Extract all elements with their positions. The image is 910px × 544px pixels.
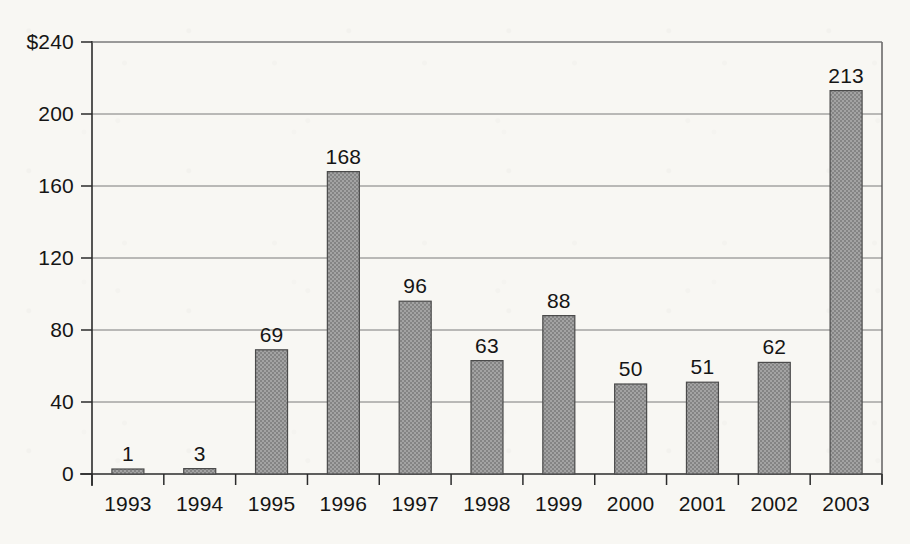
bar-value-label-2003: 213 [828,64,864,87]
bar-value-label-1994: 3 [194,442,206,465]
bar-value-label-2000: 50 [619,357,643,380]
bar-value-label-1995: 69 [260,323,284,346]
bar-value-label-1998: 63 [475,334,499,357]
x-axis-label-2001: 2001 [679,492,727,515]
bar-1998 [471,361,503,474]
x-axis-labels-group: 1993199419951996199719981999200020012002… [104,492,870,515]
chart-canvas: 04080120160200$240 199319941995199619971… [0,0,910,544]
x-axis-label-1998: 1998 [463,492,511,515]
bars-group [112,91,862,474]
bar-2003 [830,91,862,474]
bar-1996 [327,172,359,474]
bar-1995 [256,350,288,474]
bar-value-label-2002: 62 [762,335,786,358]
bar-value-label-1999: 88 [547,289,571,312]
y-axis-label-200: 200 [38,102,74,125]
y-axis-labels-group: 04080120160200$240 [26,30,74,485]
y-axis-label-160: 160 [38,174,74,197]
bar-chart: 04080120160200$240 199319941995199619971… [0,0,910,544]
x-axis-label-1999: 1999 [535,492,583,515]
x-axis-label-1993: 1993 [104,492,152,515]
bar-1997 [399,301,431,474]
x-axis-label-1994: 1994 [176,492,224,515]
bar-value-label-1993: 1 [122,442,134,465]
y-axis-label-240: $240 [26,30,74,53]
bar-2002 [758,362,790,474]
bar-value-label-1996: 168 [326,145,362,168]
x-axis-label-2000: 2000 [607,492,655,515]
x-axis-label-1996: 1996 [320,492,368,515]
bar-1994 [184,469,216,474]
bar-1999 [543,316,575,474]
y-axis-label-0: 0 [62,462,74,485]
x-axis-label-1995: 1995 [248,492,296,515]
x-tick-marks-group [92,474,882,485]
bar-2001 [686,382,718,474]
y-axis-label-120: 120 [38,246,74,269]
y-axis-label-80: 80 [50,318,74,341]
bar-1993 [112,469,144,474]
bar-value-label-2001: 51 [691,355,715,378]
y-axis-label-40: 40 [50,390,74,413]
x-axis-label-1997: 1997 [391,492,439,515]
x-axis-label-2002: 2002 [751,492,799,515]
bar-value-label-1997: 96 [403,274,427,297]
x-axis-label-2003: 2003 [822,492,870,515]
bar-2000 [615,384,647,474]
